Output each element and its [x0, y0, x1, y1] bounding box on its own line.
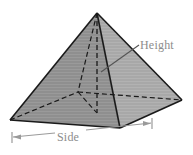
side-dimension-arrow-left [13, 135, 21, 140]
side-label: Side [57, 131, 79, 143]
height-label: Height [140, 39, 174, 51]
pyramid-figure: Height Side [0, 0, 193, 155]
side-dimension-arrow-right [143, 121, 151, 126]
pyramid-drawing [0, 0, 193, 155]
